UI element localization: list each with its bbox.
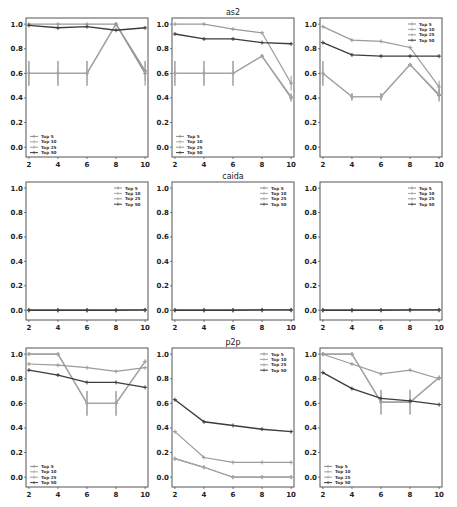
y-tick-label: 0.2 [11, 449, 24, 457]
y-tick-label: 0.4 [11, 94, 24, 102]
legend-label: Top 50 [41, 480, 57, 485]
y-tick-label: 0.8 [11, 209, 24, 217]
x-tick-label: 10 [434, 324, 444, 332]
x-tick-label: 2 [172, 161, 177, 169]
y-tick-label: 0.0 [305, 144, 318, 152]
x-tick-label: 2 [320, 324, 325, 332]
legend-label: Top 10 [271, 357, 287, 362]
legend-label: Top 25 [271, 196, 287, 201]
x-tick-label: 6 [231, 491, 236, 499]
y-tick-label: 0.2 [305, 449, 318, 457]
y-tick-label: 0.6 [157, 233, 170, 241]
y-tick-label: 0.8 [157, 45, 170, 53]
x-tick-label: 10 [286, 161, 296, 169]
y-tick-label: 1.0 [11, 351, 24, 359]
y-tick-label: 0.0 [157, 307, 170, 315]
x-tick-label: 4 [350, 491, 355, 499]
legend-label: Top 5 [419, 22, 432, 27]
chart-grid: 0.00.20.40.60.81.0246810Top 5Top 10Top 2… [0, 0, 457, 507]
x-tick-label: 4 [350, 161, 355, 169]
x-tick-label: 4 [202, 491, 207, 499]
legend-label: Top 5 [41, 134, 54, 139]
legend-label: Top 10 [41, 139, 57, 144]
y-tick-label: 0.2 [157, 119, 170, 127]
x-tick-label: 6 [85, 324, 90, 332]
x-tick-label: 8 [114, 161, 119, 169]
subplot-r2c2: 0.00.20.40.60.81.0246810Top 5Top 10Top 2… [305, 348, 444, 499]
y-tick-label: 0.8 [157, 375, 170, 383]
x-tick-label: 8 [408, 324, 413, 332]
legend-label: Top 50 [335, 480, 351, 485]
y-tick-label: 0.6 [157, 400, 170, 408]
y-tick-label: 0.2 [305, 282, 318, 290]
x-tick-label: 8 [408, 491, 413, 499]
y-tick-label: 1.0 [305, 21, 318, 29]
y-tick-label: 0.4 [11, 258, 24, 266]
legend-label: Top 50 [41, 150, 57, 155]
legend-label: Top 50 [187, 150, 203, 155]
y-tick-label: 0.0 [11, 474, 24, 482]
legend-label: Top 50 [419, 38, 435, 43]
y-tick-label: 0.6 [11, 70, 24, 78]
y-tick-label: 0.0 [305, 474, 318, 482]
y-tick-label: 0.6 [11, 400, 24, 408]
x-tick-label: 6 [379, 491, 384, 499]
subplot-p2p: p2p0.00.20.40.60.81.0246810Top 5Top 10To… [157, 338, 296, 499]
y-tick-label: 0.0 [157, 474, 170, 482]
subplot-caida: caida0.00.20.40.60.81.0246810Top 5Top 10… [157, 172, 296, 332]
y-tick-label: 0.4 [305, 258, 318, 266]
x-tick-label: 4 [350, 324, 355, 332]
y-tick-label: 1.0 [157, 351, 170, 359]
legend-label: Top 25 [125, 196, 141, 201]
legend-label: Top 50 [271, 368, 287, 373]
y-tick-label: 1.0 [305, 351, 318, 359]
y-tick-label: 0.0 [305, 307, 318, 315]
y-tick-label: 0.4 [305, 424, 318, 432]
x-tick-label: 10 [140, 491, 150, 499]
legend-label: Top 5 [419, 186, 432, 191]
legend-label: Top 10 [271, 191, 287, 196]
legend-label: Top 25 [419, 196, 435, 201]
legend-label: Top 50 [125, 202, 141, 207]
y-tick-label: 0.0 [11, 307, 24, 315]
x-tick-label: 6 [379, 324, 384, 332]
y-tick-label: 0.2 [157, 282, 170, 290]
legend-label: Top 10 [335, 469, 351, 474]
x-tick-label: 6 [85, 161, 90, 169]
y-tick-label: 0.4 [11, 424, 24, 432]
y-tick-label: 0.8 [305, 375, 318, 383]
y-tick-label: 1.0 [11, 21, 24, 29]
legend-label: Top 10 [187, 139, 203, 144]
x-tick-label: 2 [26, 324, 31, 332]
x-tick-label: 4 [56, 491, 61, 499]
x-tick-label: 8 [260, 161, 265, 169]
x-tick-label: 6 [231, 324, 236, 332]
legend-label: Top 5 [271, 352, 284, 357]
legend-label: Top 10 [41, 469, 57, 474]
x-tick-label: 4 [202, 324, 207, 332]
y-tick-label: 0.0 [157, 144, 170, 152]
legend-label: Top 5 [41, 464, 54, 469]
x-tick-label: 6 [379, 161, 384, 169]
x-tick-label: 8 [260, 491, 265, 499]
y-tick-label: 0.8 [11, 375, 24, 383]
x-tick-label: 6 [85, 491, 90, 499]
x-tick-label: 10 [140, 161, 150, 169]
y-tick-label: 0.4 [157, 424, 170, 432]
y-tick-label: 1.0 [157, 185, 170, 193]
y-tick-label: 0.6 [11, 233, 24, 241]
subplot-r0c0: 0.00.20.40.60.81.0246810Top 5Top 10Top 2… [11, 18, 150, 169]
legend-label: Top 25 [271, 362, 287, 367]
y-tick-label: 1.0 [305, 185, 318, 193]
x-tick-label: 6 [231, 161, 236, 169]
x-tick-label: 2 [26, 161, 31, 169]
x-tick-label: 10 [140, 324, 150, 332]
legend-label: Top 5 [125, 186, 138, 191]
y-tick-label: 0.8 [157, 209, 170, 217]
y-tick-label: 1.0 [11, 185, 24, 193]
y-tick-label: 0.6 [305, 233, 318, 241]
subplot-title: as2 [226, 8, 240, 17]
x-tick-label: 4 [56, 161, 61, 169]
legend-label: Top 25 [335, 475, 351, 480]
x-tick-label: 8 [408, 161, 413, 169]
